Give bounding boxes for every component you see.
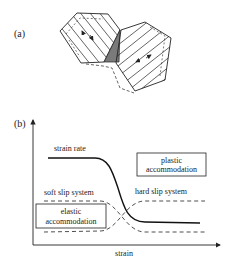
hard-slip-label: hard slip system (135, 187, 188, 196)
plastic-label-line1: plastic (161, 156, 182, 165)
elastic-label-line1: elastic (61, 207, 82, 216)
panel-b-label: (b) (14, 118, 26, 130)
slip-arrow-icon (82, 31, 84, 35)
plastic-label-line2: accommodation (146, 165, 197, 174)
elastic-label-line2: accommodation (45, 217, 96, 226)
x-axis-label: strain (115, 249, 133, 258)
strain-rate-label: strain rate (54, 144, 86, 153)
slip-arrow-icon (146, 55, 151, 58)
soft-slip-label: soft slip system (44, 188, 95, 197)
figure: (a) (0, 0, 228, 264)
panel-a-label: (a) (14, 28, 25, 40)
grain-left (55, 4, 142, 70)
